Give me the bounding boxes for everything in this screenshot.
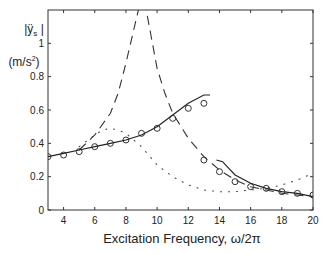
y-tick-label: 0.4 [30,138,44,149]
x-tick-label: 6 [92,215,98,226]
y-tick-label: 0 [38,205,44,216]
series-layer [45,2,316,198]
x-tick-label: 20 [307,215,319,226]
x-tick-label: 16 [245,215,257,226]
data-point-marker [216,169,222,175]
x-tick-label: 12 [183,215,195,226]
x-axis-label: Excitation Frequency, ω/2π [103,231,261,246]
x-tick-label: 14 [214,215,226,226]
data-point-marker [201,100,207,106]
data-point-marker [232,179,238,185]
y-tick-label: 0.6 [30,105,44,116]
plot-area-border [48,10,313,210]
y-tick-label: 0.2 [30,171,44,182]
y-axis-label-symbol: |ÿs | [24,22,44,38]
data-point-marker [185,105,191,111]
plot-frame [48,10,313,210]
x-tick-label: 18 [276,215,288,226]
solid-curve [48,95,210,157]
chart: 468101214161820 00.20.40.60.81 Excitatio… [0,0,330,254]
x-tick-label: 10 [152,215,164,226]
x-tick-label: 8 [123,215,129,226]
y-tick-label: 0.8 [30,71,44,82]
x-tick-label: 4 [61,215,67,226]
dotted-curve [79,128,313,191]
y-axis-label-units: (m/s2) [8,55,39,69]
x-axis-ticks: 468101214161820 [61,10,319,226]
y-tick-label: 1 [38,38,44,49]
